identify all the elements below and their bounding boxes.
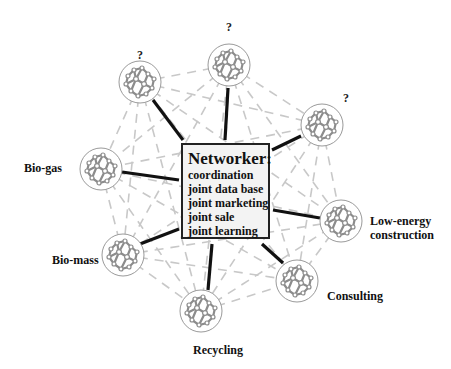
node-label-unknown-top-right: ?: [343, 91, 349, 106]
node-unknown-top-icon: [208, 44, 250, 86]
networker-item: joint sale: [188, 210, 263, 224]
node-low-energy-icon: [320, 200, 362, 242]
node-unknown-top-left-icon: [119, 61, 161, 103]
node-label-low-energy-line2: construction: [370, 228, 434, 242]
node-label-unknown-top: ?: [226, 20, 232, 35]
node-recycling-icon: [180, 290, 222, 332]
node-label-low-energy-line1: Low-energy: [370, 214, 434, 228]
networker-item: coordination: [188, 168, 263, 182]
node-label-bio-mass: Bio-mass: [52, 253, 99, 267]
networker-item: joint data base: [188, 182, 263, 196]
networker-box: Networker: coordination joint data base …: [181, 143, 270, 239]
node-label-low-energy: Low-energy construction: [370, 214, 434, 242]
node-bio-mass-icon: [102, 234, 144, 276]
node-bio-gas-icon: [80, 148, 122, 190]
node-label-recycling: Recycling: [193, 343, 243, 357]
node-label-unknown-top-left: ?: [137, 48, 143, 63]
node-consulting-icon: [276, 260, 318, 302]
node-label-bio-gas: Bio-gas: [24, 161, 62, 175]
networker-item: joint marketing: [188, 196, 263, 210]
networker-title: Networker:: [188, 149, 263, 168]
networker-item: joint learning: [188, 224, 263, 238]
node-unknown-top-right-icon: [301, 104, 343, 146]
node-label-consulting: Consulting: [327, 289, 383, 303]
